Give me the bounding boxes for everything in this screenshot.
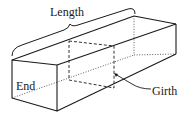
bottom-right-edge (57, 54, 176, 111)
girth-pointer-arrow (115, 74, 151, 89)
hidden-back-bottom-edge (134, 54, 176, 55)
top-right-edge (57, 24, 176, 65)
top-back-edge (134, 16, 176, 24)
girth-label: Girth (152, 84, 177, 98)
length-label: Length (50, 5, 84, 19)
top-left-edge (12, 16, 134, 60)
end-label: End (16, 79, 35, 93)
box-diagram: Length End Girth (0, 0, 190, 119)
